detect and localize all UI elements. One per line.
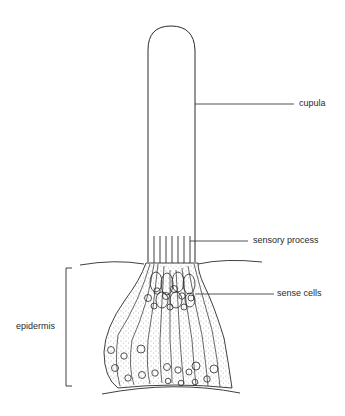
cupula <box>148 26 195 262</box>
sense-organ-body <box>104 263 232 388</box>
label-epidermis: epidermis <box>16 322 55 331</box>
sensory-processes <box>154 236 190 263</box>
label-sense-cells: sense cells <box>277 289 322 298</box>
neuromast-diagram <box>0 0 345 416</box>
label-cupula: cupula <box>299 99 326 108</box>
epidermis-bracket <box>66 268 72 386</box>
label-sensory-process: sensory process <box>253 236 319 245</box>
leader-lines <box>190 104 294 294</box>
